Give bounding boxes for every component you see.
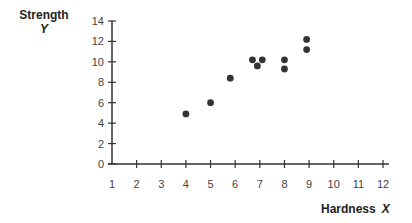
x-tick-label: 10 <box>328 178 340 190</box>
data-point <box>183 111 190 118</box>
y-tick-label: 4 <box>98 117 104 129</box>
x-tick-label: 9 <box>306 178 312 190</box>
y-tick-label: 10 <box>92 56 104 68</box>
y-tick-label: 2 <box>98 138 104 150</box>
data-point <box>207 99 214 106</box>
data-point <box>259 56 266 63</box>
data-points <box>183 36 311 117</box>
y-tick-label: 14 <box>92 15 104 27</box>
x-axis-variable: X <box>382 202 390 216</box>
y-tick-label: 8 <box>98 76 104 88</box>
data-point <box>303 36 310 43</box>
x-tick-label: 6 <box>232 178 238 190</box>
x-tick-label: 2 <box>134 178 140 190</box>
scatter-plot: 02468101214 123456789101112 <box>0 0 412 223</box>
data-point <box>249 56 256 63</box>
y-tick-label: 6 <box>98 97 104 109</box>
x-tick-label: 3 <box>158 178 164 190</box>
data-point <box>303 46 310 53</box>
x-tick-label: 5 <box>207 178 213 190</box>
data-point <box>227 75 234 82</box>
x-tick-label: 12 <box>377 178 389 190</box>
x-tick-label: 4 <box>183 178 189 190</box>
axes <box>108 21 389 164</box>
x-tick-label: 7 <box>257 178 263 190</box>
y-tick-label: 12 <box>92 35 104 47</box>
data-point <box>281 56 288 63</box>
x-tick-label: 1 <box>109 178 115 190</box>
x-tick-label: 8 <box>281 178 287 190</box>
data-point <box>254 63 261 70</box>
y-tick-label: 0 <box>98 158 104 170</box>
x-axis-label: HardnessX <box>321 202 390 216</box>
x-axis-label-text: Hardness <box>321 202 376 216</box>
data-point <box>281 66 288 73</box>
x-tick-label: 11 <box>353 178 364 190</box>
